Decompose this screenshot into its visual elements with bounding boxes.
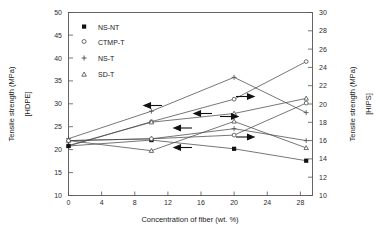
- y-left-tick-label: 15: [54, 169, 62, 176]
- x-tick-label: 20: [230, 199, 238, 206]
- x-tick-label: 16: [197, 199, 205, 206]
- x-tick-label: 28: [297, 199, 305, 206]
- y-axis-right-title: Tensile strength (MPa): [348, 66, 357, 142]
- y-axis-right-subtitle: [HIPS]: [364, 93, 373, 115]
- x-tick-label: 0: [67, 199, 71, 206]
- y-right-tick-label: 18: [319, 119, 327, 126]
- y-right-tick-label: 26: [319, 46, 327, 53]
- legend-label: NS-T: [98, 55, 115, 62]
- y-right-tick-label: 28: [319, 27, 327, 34]
- open-circle-marker-icon: [82, 40, 86, 44]
- y-left-tick-label: 30: [54, 100, 62, 107]
- y-left-tick-label: 50: [54, 9, 62, 16]
- y-left-tick-label: 20: [54, 146, 62, 153]
- y-axis-left-subtitle: [HDPE]: [23, 91, 32, 116]
- y-left-tick-labels: 10 15 20 25 30 35 40 45 50: [54, 9, 62, 199]
- legend-label: NS-NT: [98, 24, 120, 31]
- x-tick-label: 12: [164, 199, 172, 206]
- x-axis-title: Concentration of fiber (wt. %): [141, 215, 239, 224]
- filled-square-marker-icon: [82, 25, 86, 29]
- y-left-tick-label: 45: [54, 32, 62, 39]
- y-right-tick-label: 12: [319, 174, 327, 181]
- x-tick-label: 24: [263, 199, 271, 206]
- legend-label: SD-T: [98, 71, 115, 78]
- y-right-tick-label: 14: [319, 155, 327, 162]
- y-left-tick-label: 25: [54, 123, 62, 130]
- y-left-tick-label: 35: [54, 77, 62, 84]
- x-tick-label: 4: [100, 199, 104, 206]
- y-axis-left-title: Tensile strength (MPa): [7, 66, 16, 142]
- y-right-tick-label: 16: [319, 137, 327, 144]
- y-left-tick-label: 10: [54, 192, 62, 199]
- y-left-tick-label: 40: [54, 55, 62, 62]
- chart-figure: 0 4 8 12 16 20 24 28 10 15 20 25 30 35 4…: [0, 0, 384, 236]
- y-right-tick-label: 24: [319, 64, 327, 71]
- chart-canvas: 0 4 8 12 16 20 24 28 10 15 20 25 30 35 4…: [0, 0, 384, 236]
- y-right-tick-label: 10: [319, 192, 327, 199]
- y-right-tick-label: 22: [319, 82, 327, 89]
- x-tick-label: 8: [133, 199, 137, 206]
- legend-label: CTMP-T: [98, 39, 125, 46]
- y-right-tick-label: 20: [319, 101, 327, 108]
- y-right-tick-label: 30: [319, 9, 327, 16]
